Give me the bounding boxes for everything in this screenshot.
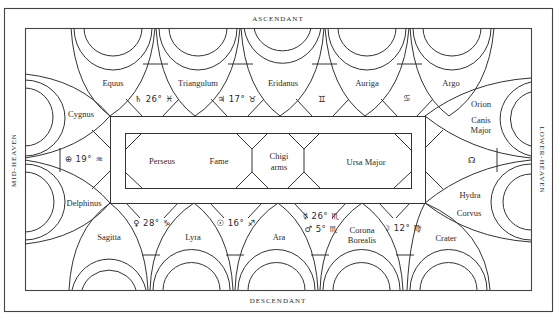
constellation-ara: Ara xyxy=(273,232,286,242)
constellation-delphinus: Delphinus xyxy=(67,198,102,208)
constellation-auriga: Auriga xyxy=(355,78,379,88)
constellation-cygnus: Cygnus xyxy=(68,109,94,119)
edge-label-lower-heaven: LOWER-HEAVEN xyxy=(538,126,546,193)
constellation-equus: Equus xyxy=(102,78,123,88)
constellation-eridanus: Eridanus xyxy=(268,78,298,88)
planet-mercury-scorpio: ☿ 26° ♏ xyxy=(303,211,340,221)
constellation-major: Major xyxy=(471,125,492,135)
planet-earth-aquarius: ⊕ 19° ♒ xyxy=(65,154,104,164)
edge-label-mid-heaven: MID-HEAVEN xyxy=(10,133,18,187)
constellation-corona: Corona xyxy=(349,225,374,235)
edge-label-descendant: DESCENDANT xyxy=(250,297,307,305)
constellation-lyra: Lyra xyxy=(185,232,201,242)
planet-venus-capricorn: ♀ 28° ♑ xyxy=(133,218,171,228)
constellation-hydra: Hydra xyxy=(459,190,480,200)
constellation-sagitta: Sagitta xyxy=(97,232,121,242)
constellation-canis: Canis xyxy=(471,115,490,125)
planet-jupiter-taurus: ♃ 17° ♉ xyxy=(217,94,256,104)
center-chigi: Chigi xyxy=(270,151,289,161)
constellation-argo: Argo xyxy=(442,78,459,88)
constellation-corvus: Corvus xyxy=(457,208,482,218)
planet-moon-virgo: ☽ 12° ♍ xyxy=(382,223,421,233)
sign-gemini: ♊ xyxy=(318,94,326,104)
center-perseus: Perseus xyxy=(149,156,175,166)
planet-saturn-pisces: ♄ 26° ♓ xyxy=(134,94,173,104)
planet-mars-scorpio: ♂ 5° ♏ xyxy=(304,224,337,234)
bottom-arches xyxy=(69,203,490,290)
constellation-crater: Crater xyxy=(435,233,456,243)
sign-cancer: ♋ xyxy=(403,93,411,103)
constellation-orion: Orion xyxy=(471,99,491,109)
planet-sun-sagittarius: ☉ 16° ♐ xyxy=(216,218,255,228)
constellation-triangulum: Triangulum xyxy=(178,78,218,88)
center-fame: Fame xyxy=(210,156,229,166)
center-ursa-major: Ursa Major xyxy=(347,157,386,167)
constellation-borealis: Borealis xyxy=(348,235,376,245)
edge-label-ascendant: ASCENDANT xyxy=(252,15,303,23)
node-symbol: ☊ xyxy=(468,155,476,165)
center-arms: arms xyxy=(271,162,288,172)
